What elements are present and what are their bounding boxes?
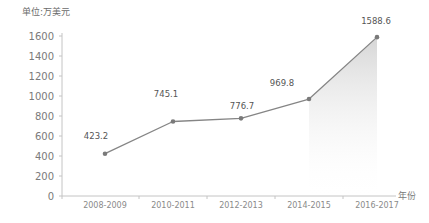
line-chart: 单位:万美元 年份 0 200 400 600 800 1000 1200 14… — [0, 0, 429, 223]
data-point-marker — [307, 97, 312, 102]
data-point-marker — [375, 35, 380, 40]
area-fill — [309, 37, 377, 196]
data-point-marker — [239, 116, 244, 121]
data-point-marker — [103, 151, 108, 156]
data-point-marker — [171, 119, 176, 124]
plot-canvas — [0, 0, 429, 223]
